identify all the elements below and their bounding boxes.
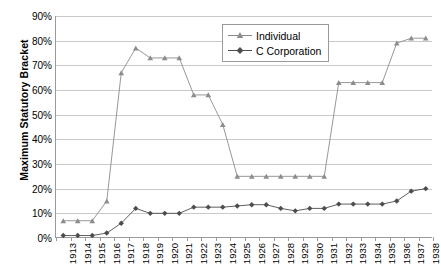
x-axis-tick-label: 1913 bbox=[67, 243, 78, 264]
y-axis-tick-label: 40% bbox=[32, 134, 52, 145]
x-axis-tick-label: 1931 bbox=[328, 243, 339, 264]
data-point-marker bbox=[75, 233, 80, 238]
y-axis-tick-label: 30% bbox=[32, 159, 52, 170]
data-point-marker bbox=[191, 204, 196, 209]
x-axis-tick-label: 1932 bbox=[343, 243, 354, 264]
data-point-marker bbox=[90, 233, 95, 238]
x-axis-tick-label: 1930 bbox=[314, 243, 325, 264]
x-axis-tick-label: 1915 bbox=[96, 243, 107, 264]
x-axis-tick-label: 1922 bbox=[198, 243, 209, 264]
data-point-marker bbox=[278, 206, 283, 211]
legend-label-individual: Individual bbox=[256, 30, 300, 42]
data-point-marker bbox=[220, 122, 226, 127]
series-line bbox=[63, 189, 426, 236]
data-point-marker bbox=[322, 206, 327, 211]
y-axis-tick-label: 70% bbox=[32, 60, 52, 71]
data-point-marker bbox=[177, 211, 182, 216]
x-axis-tick-label: 1923 bbox=[212, 243, 223, 264]
y-axis-title: Maximum Statutory Bracket bbox=[18, 10, 30, 210]
data-point-marker bbox=[423, 186, 428, 191]
x-axis-tick-label: 1926 bbox=[256, 243, 267, 264]
series-individual bbox=[60, 36, 428, 224]
y-axis-tick-label: 50% bbox=[32, 109, 52, 120]
series-line bbox=[63, 38, 426, 221]
data-point-marker bbox=[394, 198, 399, 203]
data-point-marker bbox=[394, 41, 400, 46]
x-axis-tick-label: 1919 bbox=[154, 243, 165, 264]
y-axis-tick-label: 90% bbox=[32, 11, 52, 22]
x-axis-tick-label: 1937 bbox=[415, 243, 426, 264]
data-point-marker bbox=[148, 211, 153, 216]
data-point-marker bbox=[336, 201, 341, 206]
x-axis-tick-label: 1936 bbox=[401, 243, 412, 264]
y-axis-tick-label: 10% bbox=[32, 208, 52, 219]
data-point-marker bbox=[249, 202, 254, 207]
data-point-marker bbox=[307, 206, 312, 211]
data-point-marker bbox=[351, 201, 356, 206]
y-axis-tick-label: 0% bbox=[38, 233, 52, 244]
x-axis-tick-label: 1916 bbox=[111, 243, 122, 264]
chart-legend: Individual C Corporation bbox=[222, 24, 329, 62]
x-axis-tick-label: 1934 bbox=[372, 243, 383, 264]
x-axis-tick-label: 1918 bbox=[140, 243, 151, 264]
data-point-marker bbox=[264, 202, 269, 207]
legend-item-individual: Individual bbox=[227, 28, 321, 43]
data-point-marker bbox=[380, 201, 385, 206]
x-axis-tick-label: 1925 bbox=[241, 243, 252, 264]
data-point-marker bbox=[365, 201, 370, 206]
x-axis-tick-label: 1914 bbox=[82, 243, 93, 264]
legend-marker-triangle-icon bbox=[227, 30, 253, 41]
data-point-marker bbox=[133, 45, 139, 50]
data-point-marker bbox=[206, 204, 211, 209]
x-axis-tick-mark bbox=[433, 237, 434, 241]
series-c-corporation bbox=[61, 186, 429, 238]
data-point-marker bbox=[61, 233, 66, 238]
x-axis-tick-label: 1929 bbox=[299, 243, 310, 264]
legend-label-c-corporation: C Corporation bbox=[256, 45, 321, 57]
data-point-marker bbox=[220, 204, 225, 209]
x-axis-tick-label: 1927 bbox=[270, 243, 281, 264]
data-point-marker bbox=[104, 198, 110, 203]
x-axis-tick-label: 1924 bbox=[227, 243, 238, 264]
y-axis-tick-label: 20% bbox=[32, 183, 52, 194]
data-point-marker bbox=[409, 188, 414, 193]
x-axis-tick-label: 1938 bbox=[430, 243, 441, 264]
x-axis-tick-label: 1917 bbox=[125, 243, 136, 264]
x-axis-tick-label: 1935 bbox=[386, 243, 397, 264]
data-point-marker bbox=[118, 70, 124, 75]
x-axis-tick-label: 1933 bbox=[357, 243, 368, 264]
legend-marker-diamond-icon bbox=[227, 45, 253, 56]
x-axis-tick-label: 1921 bbox=[183, 243, 194, 264]
data-point-marker bbox=[235, 203, 240, 208]
x-axis-tick-label: 1928 bbox=[285, 243, 296, 264]
legend-item-c-corporation: C Corporation bbox=[227, 43, 321, 58]
y-axis-tick-label: 60% bbox=[32, 85, 52, 96]
data-point-marker bbox=[162, 211, 167, 216]
y-axis-tick-label: 80% bbox=[32, 35, 52, 46]
x-axis-tick-label: 1920 bbox=[169, 243, 180, 264]
data-point-marker bbox=[293, 208, 298, 213]
data-point-marker bbox=[104, 230, 109, 235]
